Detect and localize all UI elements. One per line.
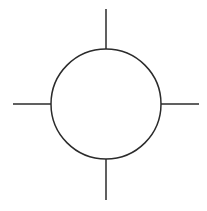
diagram-canvas (0, 0, 207, 211)
circle-outline (51, 49, 161, 159)
circle-spokes-diagram (0, 0, 207, 211)
